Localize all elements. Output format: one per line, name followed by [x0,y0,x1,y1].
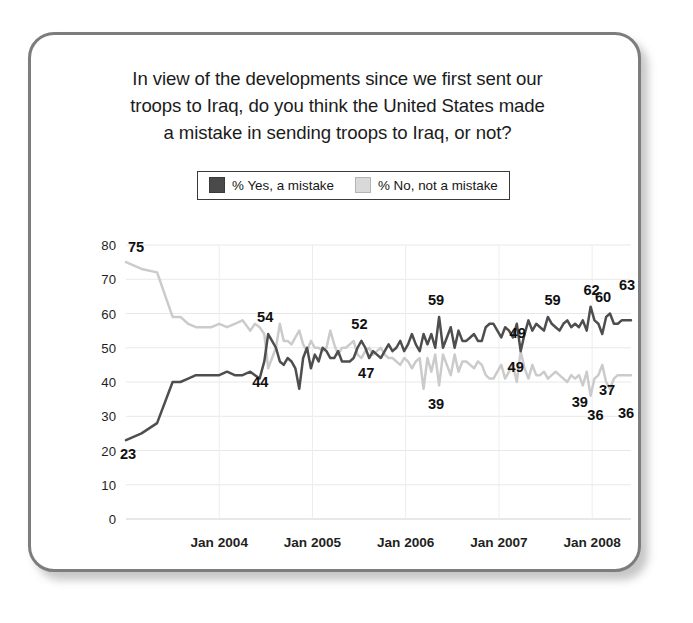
chart-svg: 01020304050607080 7523544452475939494959… [31,231,638,561]
legend-item-no: % No, not a mistake [355,177,498,193]
legend-label-yes: % Yes, a mistake [232,178,334,193]
data-point-label: 47 [358,365,374,381]
data-point-label: 75 [128,239,144,255]
x-axis-tick-label: Jan 2006 [377,535,435,550]
legend-swatch-yes-icon [209,177,225,193]
chart-gridlines [126,245,631,519]
data-point-label: 59 [544,292,560,308]
x-axis-tick-label: Jan 2007 [470,535,527,550]
y-axis-tick-label: 10 [101,478,116,493]
data-point-label: 44 [252,374,269,390]
screenshot-root: In view of the developments since we fir… [0,0,693,623]
chart-title-line-1: In view of the developments since we fir… [65,65,610,92]
data-point-label: 59 [428,292,444,308]
data-point-label: 49 [508,359,524,375]
y-axis-tick-label: 40 [101,375,116,390]
legend-item-yes: % Yes, a mistake [209,177,334,193]
data-point-label: 39 [428,396,444,412]
y-axis-tick-label: 0 [109,512,116,527]
y-axis-tick-label: 60 [101,307,116,322]
x-axis-tick-label: Jan 2005 [284,535,342,550]
chart-x-axis-ticks: Jan 2004Jan 2005Jan 2006Jan 2007Jan 2008 [191,535,622,550]
y-axis-tick-label: 20 [101,444,116,459]
y-axis-tick-label: 70 [101,272,116,287]
x-axis-tick-label: Jan 2008 [563,535,621,550]
data-point-label: 63 [619,277,635,293]
chart-legend: % Yes, a mistake % No, not a mistake [197,171,510,200]
y-axis-tick-label: 30 [101,409,116,424]
chart-title: In view of the developments since we fir… [65,65,610,146]
chart-card-inner: In view of the developments since we fir… [31,35,638,569]
chart-y-axis-ticks: 01020304050607080 [101,238,116,527]
chart-title-line-2: troops to Iraq, do you think the United … [65,92,610,119]
data-point-label: 52 [351,316,367,332]
chart-plot-area: 01020304050607080 7523544452475939494959… [31,231,638,561]
data-point-label: 60 [595,289,611,305]
data-point-label: 54 [257,309,274,325]
chart-title-line-3: a mistake in sending troops to Iraq, or … [65,119,610,146]
x-axis-tick-label: Jan 2004 [191,535,249,550]
y-axis-tick-label: 80 [101,238,116,253]
y-axis-tick-label: 50 [101,341,116,356]
data-point-label: 37 [599,382,615,398]
data-point-label: 39 [572,394,588,410]
legend-swatch-no-icon [355,177,371,193]
data-point-label: 23 [120,446,136,462]
legend-label-no: % No, not a mistake [378,178,498,193]
data-point-label: 49 [510,325,526,341]
data-point-label: 36 [587,407,603,423]
data-point-label: 36 [618,405,634,421]
chart-card: In view of the developments since we fir… [28,32,641,572]
chart-series-group [126,262,631,440]
